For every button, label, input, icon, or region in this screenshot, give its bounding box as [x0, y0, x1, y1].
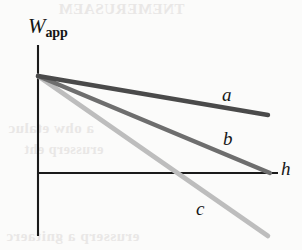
- curve-label-b: b: [223, 128, 233, 150]
- x-axis-label: h: [281, 158, 291, 180]
- curve-line-a: [38, 76, 268, 115]
- curve-label-a: a: [222, 84, 232, 106]
- y-axis-label-subscript: app: [46, 25, 68, 40]
- apparent-weight-vs-height-figure: TNEMERUSAEM a ohw etaluc erusserp eht er…: [0, 0, 302, 250]
- y-axis-label-main: W: [28, 14, 46, 38]
- curve-label-c: c: [196, 198, 204, 220]
- y-axis-label: Wapp: [28, 14, 67, 41]
